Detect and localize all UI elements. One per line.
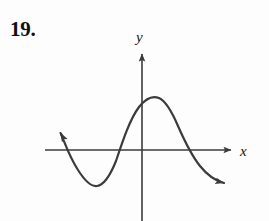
figure-container: 19. y x bbox=[0, 0, 269, 221]
graph-figure: y x bbox=[0, 0, 269, 221]
x-axis-label: x bbox=[239, 143, 247, 159]
y-axis-label: y bbox=[134, 29, 143, 45]
